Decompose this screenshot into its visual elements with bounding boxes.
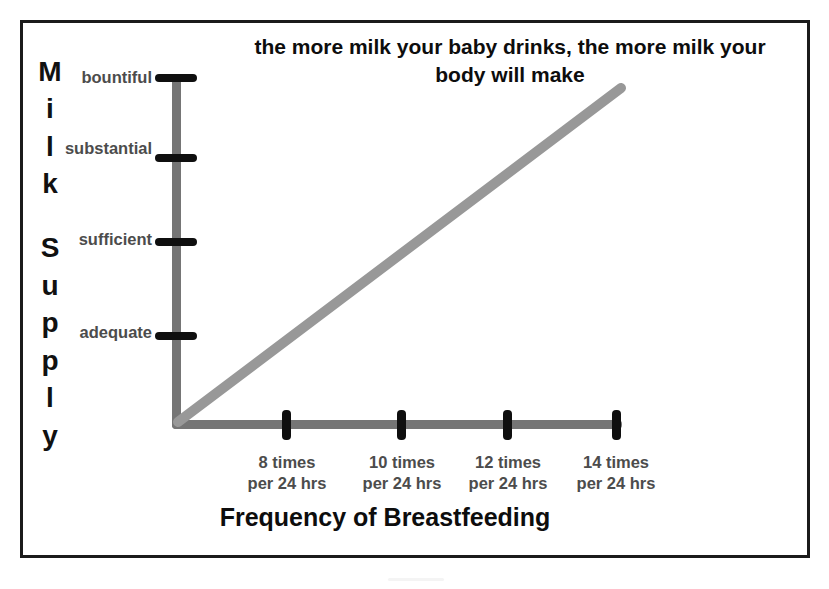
y-axis-letter: u [41, 272, 58, 300]
x-tick-label-14-times: 14 times per 24 hrs [556, 452, 676, 494]
x-tick-label-12-times: 12 times per 24 hrs [448, 452, 568, 494]
y-axis-letter: y [42, 422, 58, 450]
y-axis-letter: l [46, 384, 54, 412]
y-axis-letter: k [42, 170, 58, 198]
y-tick-sufficient [155, 238, 197, 246]
chart-title-line2: body will make [220, 61, 800, 89]
y-tick-label-bountiful: bountiful [20, 68, 152, 87]
y-tick-substantial [155, 154, 197, 162]
x-tick-label-line2: per 24 hrs [448, 473, 568, 494]
y-axis-line [172, 74, 181, 429]
y-axis-title-supply: S u p p l y [28, 234, 72, 450]
x-tick-label-line2: per 24 hrs [556, 473, 676, 494]
scan-artifact [388, 578, 444, 581]
x-tick-label-line2: per 24 hrs [227, 473, 347, 494]
x-tick-label-line1: 10 times [342, 452, 462, 473]
x-tick-label-line2: per 24 hrs [342, 473, 462, 494]
y-tick-label-substantial: substantial [20, 139, 152, 158]
y-tick-adequate [155, 332, 197, 340]
x-tick-label-10-times: 10 times per 24 hrs [342, 452, 462, 494]
x-axis-title: Frequency of Breastfeeding [150, 503, 620, 532]
chart-title-line1: the more milk your baby drinks, the more… [220, 33, 800, 61]
y-axis-letter: p [41, 347, 58, 375]
x-tick-label-line1: 14 times [556, 452, 676, 473]
x-tick-10-times [397, 410, 406, 440]
y-tick-label-adequate: adequate [20, 323, 152, 342]
y-axis-letter: i [46, 95, 54, 123]
x-tick-label-line1: 12 times [448, 452, 568, 473]
breastfeeding-chart-figure: the more milk your baby drinks, the more… [0, 0, 829, 589]
y-tick-label-sufficient: sufficient [20, 230, 152, 249]
x-tick-label-8-times: 8 times per 24 hrs [227, 452, 347, 494]
x-tick-8-times [282, 410, 291, 440]
chart-title: the more milk your baby drinks, the more… [220, 33, 800, 89]
x-tick-12-times [503, 410, 512, 440]
y-tick-bountiful [155, 74, 197, 82]
x-tick-label-line1: 8 times [227, 452, 347, 473]
x-tick-14-times [612, 410, 621, 440]
